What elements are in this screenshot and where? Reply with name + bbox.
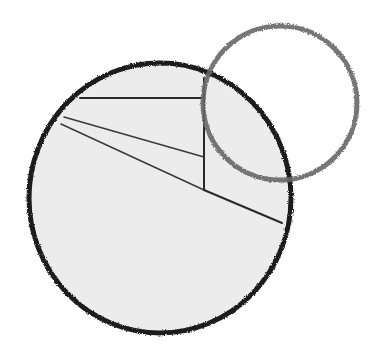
geometry-diagram: [0, 0, 383, 359]
large-circle: [29, 63, 291, 333]
